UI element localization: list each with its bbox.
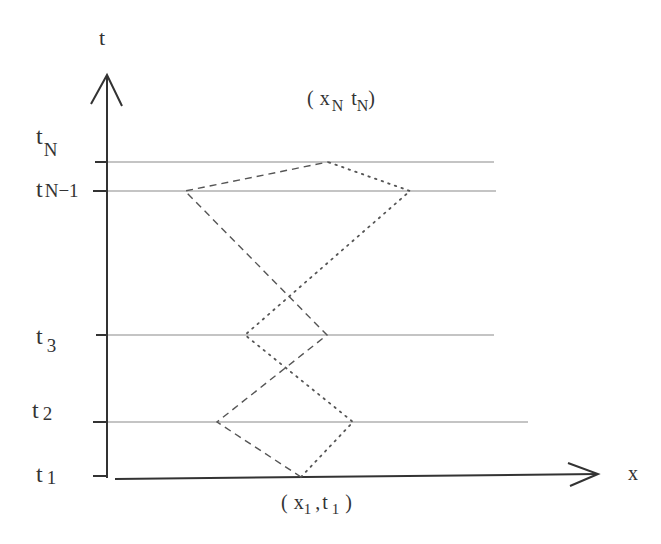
worldline-diagram: t x tN tN−1 t3 t2 t1 (xNtN) (x1,t1) [0,0,661,544]
x-axis-label: x [628,462,638,484]
label-t1: t1 [36,461,56,488]
t-axis-label: t [99,25,105,50]
time-level-lines [107,162,528,422]
axis-ticks [93,162,107,476]
label-t2: t2 [32,397,52,424]
point-label-x1-t1: (x1,t1) [281,491,352,517]
dashed-path [185,162,328,477]
label-tN: tN [36,123,58,160]
label-tN-1: tN−1 [36,176,79,202]
t-axis [91,75,122,478]
label-t3: t3 [36,323,56,356]
point-label-xN-tN: (xNtN) [307,87,375,114]
x-axis [115,463,598,486]
level-labels: tN tN−1 t3 t2 t1 [32,123,79,488]
dotted-path [245,162,410,477]
